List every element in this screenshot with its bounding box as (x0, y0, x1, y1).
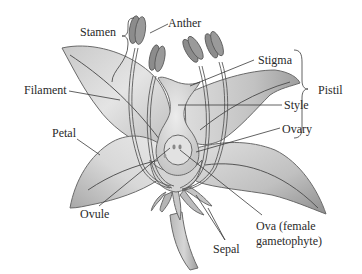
label-petal: Petal (52, 126, 77, 140)
ovary-chamber (164, 135, 192, 165)
label-stigma: Stigma (258, 53, 293, 67)
stem (170, 212, 198, 270)
label-pistil: Pistil (318, 83, 343, 97)
label-stamen: Stamen (80, 25, 116, 39)
label-style: Style (284, 98, 309, 112)
label-filament: Filament (24, 83, 67, 97)
ovule-dot (164, 154, 167, 158)
label-sepal: Sepal (213, 242, 240, 256)
anther-3 (180, 34, 206, 64)
ovule-dot (172, 145, 175, 150)
anther-4 (202, 30, 226, 60)
anther-2 (147, 44, 167, 73)
label-ova-line2: gametophyte) (256, 234, 322, 248)
flower-diagram: Stamen Anther Stigma Pistil Filament Sty… (0, 0, 362, 274)
label-anther: Anther (168, 16, 201, 30)
anther-1 (128, 15, 148, 45)
label-ova-line1: Ova (female (256, 219, 316, 233)
label-ovule: Ovule (80, 207, 109, 221)
ovule-dot (178, 145, 181, 150)
label-ovary: Ovary (282, 122, 312, 136)
